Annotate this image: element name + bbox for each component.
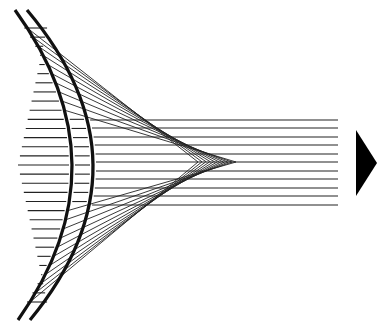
passing-rays (90, 120, 338, 205)
lens-ray-diagram-svg (0, 0, 390, 333)
ray-diagram (0, 0, 390, 333)
direction-arrow-icon (356, 130, 377, 196)
ray-line (27, 28, 198, 162)
ray-line (35, 162, 201, 293)
